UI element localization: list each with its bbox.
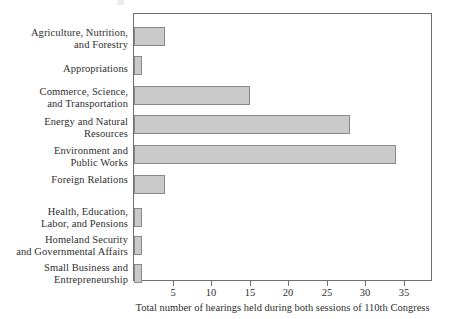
- x-tick-label: 5: [158, 286, 188, 299]
- x-tick-mark: [211, 281, 212, 286]
- bar: [134, 264, 142, 283]
- category-label: Commerce, Science,and Transportation: [0, 86, 128, 111]
- category-label-line: Agriculture, Nutrition,: [0, 27, 128, 39]
- bar: [134, 145, 396, 164]
- category-label-line: Environment and: [0, 145, 128, 157]
- x-axis-title: Total number of hearings held during bot…: [133, 301, 432, 314]
- category-label: Appropriations: [0, 63, 128, 75]
- category-label-line: Commerce, Science,: [0, 86, 128, 98]
- category-label: Environment andPublic Works: [0, 145, 128, 170]
- category-label: Small Business andEntrepreneurship: [0, 262, 128, 287]
- category-label-line: and Governmental Affairs: [0, 246, 128, 258]
- bar: [134, 56, 142, 75]
- category-label: Foreign Relations: [0, 174, 128, 186]
- category-label-line: Foreign Relations: [0, 174, 128, 186]
- category-label-line: Energy and Natural: [0, 116, 128, 128]
- x-tick-label: 20: [273, 286, 303, 299]
- category-label-line: Small Business and: [0, 262, 128, 274]
- x-tick-label: 30: [350, 286, 380, 299]
- category-label-line: Homeland Security: [0, 234, 128, 246]
- x-tick-label: 15: [235, 286, 265, 299]
- bar: [134, 208, 142, 227]
- bar-chart-figure: Agriculture, Nutrition,and ForestryAppro…: [0, 0, 452, 319]
- bar: [134, 175, 165, 194]
- category-label: Homeland Securityand Governmental Affair…: [0, 234, 128, 259]
- category-label-line: Labor, and Pensions: [0, 218, 128, 230]
- x-tick-mark: [327, 281, 328, 286]
- bar: [134, 115, 350, 134]
- x-tick-label: 25: [312, 286, 342, 299]
- x-tick-mark: [288, 281, 289, 286]
- category-label-line: and Forestry: [0, 39, 128, 51]
- x-tick-mark: [365, 281, 366, 286]
- x-tick-mark: [404, 281, 405, 286]
- bar: [134, 27, 165, 46]
- bar: [134, 86, 250, 105]
- x-tick-label: 10: [196, 286, 226, 299]
- category-label-line: Entrepreneurship: [0, 274, 128, 286]
- category-label-line: Public Works: [0, 157, 128, 169]
- category-label: Energy and NaturalResources: [0, 116, 128, 141]
- bar: [134, 236, 142, 255]
- category-label-line: and Transportation: [0, 98, 128, 110]
- bars-layer: [134, 14, 431, 280]
- category-label-line: Health, Education,: [0, 206, 128, 218]
- category-label: Health, Education,Labor, and Pensions: [0, 206, 128, 231]
- category-axis-labels: Agriculture, Nutrition,and ForestryAppro…: [0, 13, 128, 281]
- x-tick-mark: [250, 281, 251, 286]
- scan-artifact: [117, 0, 124, 5]
- category-label-line: Resources: [0, 128, 128, 140]
- x-tick-mark: [173, 281, 174, 286]
- x-tick-label: 35: [389, 286, 419, 299]
- category-label: Agriculture, Nutrition,and Forestry: [0, 27, 128, 52]
- category-label-line: Appropriations: [0, 63, 128, 75]
